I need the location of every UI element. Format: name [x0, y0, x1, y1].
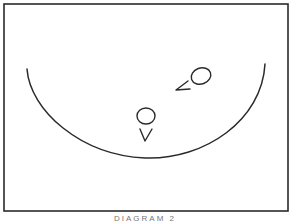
player-circle-lower [137, 108, 155, 124]
direction-arrow-left-icon [176, 81, 190, 90]
semicircle-arc [27, 64, 265, 158]
diagram-canvas [0, 0, 290, 222]
direction-arrow-down-icon [140, 129, 152, 141]
player-circle-upper [189, 65, 213, 87]
diagram-caption: DIAGRAM 2 [0, 214, 290, 222]
